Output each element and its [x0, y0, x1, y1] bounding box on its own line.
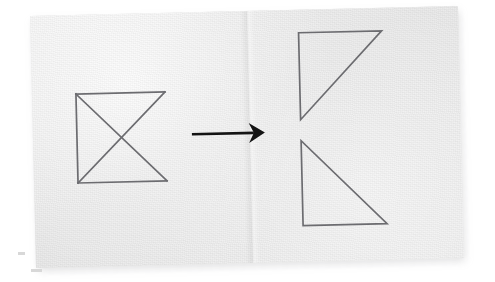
right-figure-two-triangles: [299, 31, 388, 226]
drawing-layer: [30, 6, 464, 268]
surface-speck: [31, 269, 42, 272]
transformation-arrow: [192, 123, 265, 145]
photographed-paper-sheet: [30, 6, 464, 268]
arrow-shaft: [192, 133, 254, 134]
screenshot-canvas: [0, 0, 495, 282]
left-figure-diagonal-bl-tr: [76, 92, 167, 183]
lower-right-triangle: [301, 139, 387, 226]
left-figure-left-edge: [76, 94, 78, 183]
left-figure-square-with-diagonals: [76, 92, 167, 183]
left-figure-bottom-edge: [78, 181, 167, 183]
left-figure-top-edge: [76, 92, 165, 94]
surface-speck: [18, 252, 25, 255]
upper-right-triangle: [299, 31, 384, 120]
